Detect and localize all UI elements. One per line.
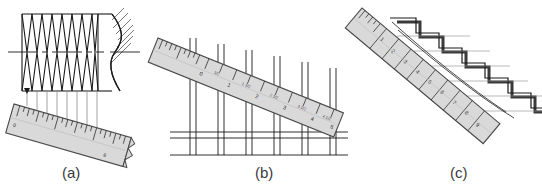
- technical-drawing-canvas: 0 6 (a): [0, 0, 542, 184]
- ruler-c: 1 2 3 4 5 6 7 8 9: [345, 8, 500, 144]
- panel-a-caption: (a): [62, 164, 80, 181]
- screw-body: [98, 14, 121, 91]
- panel-b: 0 1 2 3 4 5 1/2 1 1/2 2 1/2 3 1/2 4 1/2 …: [148, 38, 348, 181]
- panel-c-caption: (c): [450, 164, 468, 181]
- screw-threads: [22, 14, 98, 91]
- bottom-plate: [170, 132, 348, 155]
- panel-c: 1 2 3 4 5 6 7 8 9 (c): [345, 8, 542, 181]
- panel-b-caption: (b): [255, 164, 273, 181]
- panel-a: 0 6 (a): [6, 8, 140, 181]
- figure-root: 0 6 (a): [0, 0, 542, 184]
- section-hatching: [110, 8, 135, 91]
- ruler-a: 0 6: [6, 104, 137, 168]
- ruler-body: [6, 104, 132, 166]
